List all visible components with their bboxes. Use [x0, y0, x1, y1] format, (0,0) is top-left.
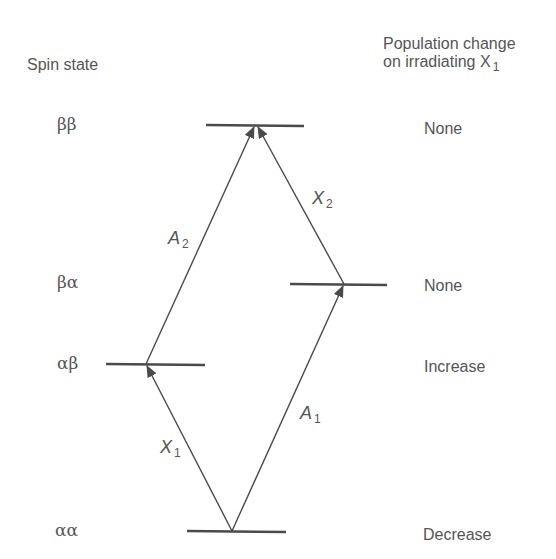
transition-label-x1: X1: [160, 437, 181, 460]
transition-arrow-a1: [232, 286, 343, 531]
transition-label-x2: X2: [312, 188, 333, 211]
level-line-bb: [206, 125, 304, 126]
level-line-ab: [106, 364, 205, 365]
level-line-ba: [290, 284, 387, 285]
transition-label-a1: A1: [300, 403, 321, 426]
transition-label-a2: A2: [168, 228, 189, 251]
energy-level-diagram: [0, 0, 556, 559]
transition-arrow-a2: [146, 127, 254, 364]
level-line-aa: [187, 531, 286, 532]
